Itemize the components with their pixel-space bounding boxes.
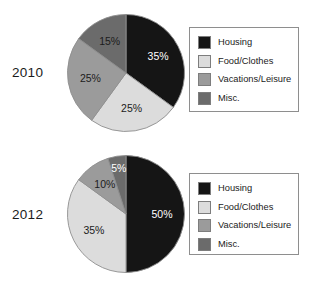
legend-item-vacations-leisure: Vacations/Leisure: [198, 217, 290, 235]
pie-slice-label: 25%: [80, 72, 101, 84]
legend-swatch-housing: [198, 36, 211, 49]
legend-label-food-clothes: Food/Clothes: [218, 57, 273, 66]
year-label-2012: 2012: [12, 207, 62, 222]
pie-slice-label: 10%: [94, 178, 115, 190]
legend-swatch-misc: [198, 238, 211, 251]
pie-slice-label: 25%: [121, 102, 142, 114]
legend-label-misc: Misc.: [218, 240, 240, 249]
pie-svg-2012: 50%35%10%5%: [66, 154, 186, 274]
legend-item-vacations-leisure: Vacations/Leisure: [198, 71, 290, 89]
legend-2012: Housing Food/Clothes Vacations/Leisure M…: [189, 173, 299, 255]
pie-slice-label: 5%: [111, 162, 126, 174]
pie-chart-2012: 2012 50%35%10%5% Housing Food/Clothes Va…: [0, 144, 315, 287]
legend-item-housing: Housing: [198, 180, 290, 198]
legend-swatch-vacations-leisure: [198, 73, 211, 86]
legend-item-misc: Misc.: [198, 90, 290, 108]
legend-swatch-food-clothes: [198, 55, 211, 68]
legend-swatch-housing: [198, 182, 211, 195]
pie-svg-2010: 35%25%25%15%: [66, 13, 186, 133]
legend-item-misc: Misc.: [198, 236, 290, 254]
year-label-2010: 2010: [12, 65, 62, 80]
legend-swatch-misc: [198, 92, 211, 105]
pie-slice-label: 50%: [151, 208, 172, 220]
legend-label-food-clothes: Food/Clothes: [218, 203, 273, 212]
legend-swatch-vacations-leisure: [198, 219, 211, 232]
legend-2010: Housing Food/Clothes Vacations/Leisure M…: [189, 27, 299, 112]
legend-label-misc: Misc.: [218, 94, 240, 103]
pie-2012: 50%35%10%5%: [66, 154, 186, 274]
legend-label-vacations-leisure: Vacations/Leisure: [218, 221, 291, 230]
legend-label-housing: Housing: [218, 184, 252, 193]
legend-label-housing: Housing: [218, 38, 252, 47]
legend-item-food-clothes: Food/Clothes: [198, 199, 290, 217]
legend-item-housing: Housing: [198, 34, 290, 52]
pie-slice-label: 35%: [83, 224, 104, 236]
legend-label-vacations-leisure: Vacations/Leisure: [218, 75, 291, 84]
legend-swatch-food-clothes: [198, 201, 211, 214]
pie-slice-label: 15%: [99, 35, 120, 47]
pie-chart-2010: 2010 35%25%25%15% Housing Food/Clothes V…: [0, 0, 315, 143]
legend-item-food-clothes: Food/Clothes: [198, 53, 290, 71]
pie-slice-label: 35%: [148, 50, 169, 62]
pie-2010: 35%25%25%15%: [66, 13, 186, 133]
